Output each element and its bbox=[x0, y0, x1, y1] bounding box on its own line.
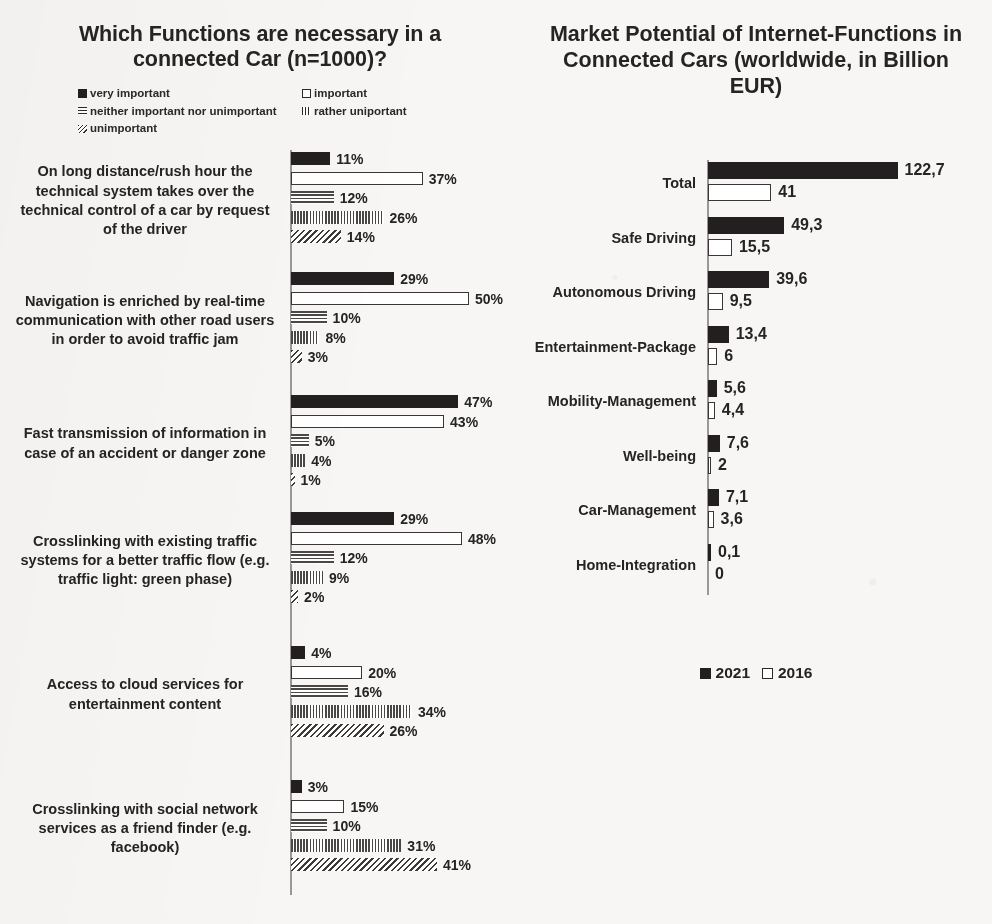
bar-solid bbox=[708, 435, 720, 452]
bar-cluster: 0,10 bbox=[708, 544, 988, 588]
bar-row: 10% bbox=[291, 311, 520, 324]
bar-vert bbox=[291, 331, 319, 344]
bar-cluster: 3%15%10%31%41% bbox=[291, 780, 520, 878]
left-chart-legend: very important important neither importa… bbox=[78, 86, 438, 139]
bar-row: 8% bbox=[291, 331, 520, 344]
bar-row: 5% bbox=[291, 434, 520, 447]
bar-horiz bbox=[291, 819, 327, 832]
bar-value-label: 26% bbox=[390, 723, 418, 739]
bar-value-label: 15% bbox=[350, 799, 378, 815]
bar-solid bbox=[291, 646, 305, 659]
bar-value-label: 15,5 bbox=[739, 238, 770, 256]
bar-value-label: 47% bbox=[464, 394, 492, 410]
bar-row: 10% bbox=[291, 819, 520, 832]
bar-open bbox=[291, 172, 423, 185]
category-group: Navigation is enriched by real-time comm… bbox=[0, 272, 520, 372]
bar-row: 50% bbox=[291, 292, 520, 305]
bar-value-label: 48% bbox=[468, 531, 496, 547]
bar-value-label: 39,6 bbox=[776, 270, 807, 288]
bar-diag bbox=[291, 473, 295, 486]
category-group: Access to cloud services for entertainme… bbox=[0, 646, 520, 746]
bar-row: 43% bbox=[291, 415, 520, 428]
bar-row: 0,1 bbox=[708, 544, 988, 561]
bar-value-label: 8% bbox=[325, 330, 345, 346]
bar-open bbox=[291, 415, 444, 428]
bar-open bbox=[291, 666, 362, 679]
bar-row: 26% bbox=[291, 211, 520, 224]
bar-cluster: 47%43%5%4%1% bbox=[291, 395, 520, 493]
bar-row: 34% bbox=[291, 705, 520, 718]
bar-row: 4,4 bbox=[708, 402, 988, 419]
bar-row: 0 bbox=[708, 566, 988, 583]
bar-value-label: 9% bbox=[329, 570, 349, 586]
bar-vert bbox=[291, 454, 305, 467]
bar-solid bbox=[291, 512, 394, 525]
bar-diag bbox=[291, 590, 298, 603]
category-label: Home-Integration bbox=[520, 557, 696, 575]
bar-value-label: 14% bbox=[347, 229, 375, 245]
legend-item-2016: 2016 bbox=[762, 664, 812, 682]
bar-value-label: 37% bbox=[429, 171, 457, 187]
bar-value-label: 31% bbox=[407, 838, 435, 854]
bar-row: 16% bbox=[291, 685, 520, 698]
bar-open bbox=[708, 457, 711, 474]
bar-value-label: 9,5 bbox=[730, 292, 752, 310]
legend-swatch-open-icon bbox=[762, 668, 773, 679]
bar-open bbox=[708, 239, 732, 256]
bar-value-label: 0,1 bbox=[718, 543, 740, 561]
category-label: Crosslinking with existing traffic syste… bbox=[14, 532, 276, 590]
bar-cluster: 7,62 bbox=[708, 435, 988, 479]
bar-value-label: 2% bbox=[304, 589, 324, 605]
left-chart-panel: Which Functions are necessary in a conne… bbox=[0, 0, 520, 924]
bar-row: 3% bbox=[291, 350, 520, 363]
bar-solid bbox=[708, 162, 898, 179]
bar-row: 12% bbox=[291, 551, 520, 564]
legend-item-unimportant: unimportant bbox=[78, 121, 438, 137]
bar-value-label: 34% bbox=[418, 704, 446, 720]
bar-vert bbox=[291, 839, 401, 852]
right-chart-panel: Market Potential of Internet-Functions i… bbox=[520, 0, 992, 924]
bar-row: 49,3 bbox=[708, 217, 988, 234]
bar-diag bbox=[291, 724, 384, 737]
right-chart-legend: 2021 2016 bbox=[520, 664, 992, 682]
bar-value-label: 12% bbox=[340, 550, 368, 566]
bar-row: 47% bbox=[291, 395, 520, 408]
bar-value-label: 122,7 bbox=[905, 161, 945, 179]
category-label: Access to cloud services for entertainme… bbox=[14, 675, 276, 714]
bar-row: 7,6 bbox=[708, 435, 988, 452]
bar-value-label: 3% bbox=[308, 779, 328, 795]
bar-solid bbox=[708, 326, 729, 343]
category-label: Crosslinking with social network service… bbox=[14, 800, 276, 858]
bar-row: 122,7 bbox=[708, 162, 988, 179]
bar-value-label: 1% bbox=[301, 472, 321, 488]
bar-diag bbox=[291, 350, 302, 363]
legend-item-very-important: very important bbox=[78, 86, 302, 102]
bar-value-label: 10% bbox=[333, 310, 361, 326]
bar-solid bbox=[291, 395, 458, 408]
bar-value-label: 41 bbox=[778, 183, 796, 201]
bar-value-label: 7,1 bbox=[726, 488, 748, 506]
category-label: Mobility-Management bbox=[520, 393, 696, 411]
bar-row: 12% bbox=[291, 191, 520, 204]
bar-open bbox=[291, 532, 462, 545]
right-chart-plot-area: Total122,741Safe Driving49,315,5Autonomo… bbox=[520, 0, 992, 924]
bar-open bbox=[708, 348, 717, 365]
bar-row: 6 bbox=[708, 348, 988, 365]
bar-row: 29% bbox=[291, 272, 520, 285]
bar-value-label: 20% bbox=[368, 665, 396, 681]
bar-row: 2 bbox=[708, 457, 988, 474]
bar-solid bbox=[291, 272, 394, 285]
bar-value-label: 4,4 bbox=[722, 401, 744, 419]
bar-row: 9,5 bbox=[708, 293, 988, 310]
legend-item-rather-unimportant: rather uniportant bbox=[302, 104, 436, 120]
bar-value-label: 26% bbox=[390, 210, 418, 226]
bar-row: 41 bbox=[708, 184, 988, 201]
category-group: Crosslinking with existing traffic syste… bbox=[0, 512, 520, 612]
bar-cluster: 29%50%10%8%3% bbox=[291, 272, 520, 370]
category-group: On long distance/rush hour the technical… bbox=[0, 152, 520, 252]
bar-row: 15% bbox=[291, 800, 520, 813]
bar-row: 14% bbox=[291, 230, 520, 243]
legend-swatch-diagonal-lines-icon bbox=[78, 125, 87, 133]
bar-open bbox=[708, 511, 714, 528]
bar-diag bbox=[291, 858, 437, 871]
